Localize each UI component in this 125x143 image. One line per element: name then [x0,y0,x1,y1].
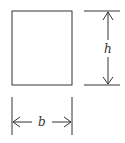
width-label: b [38,115,46,129]
height-dimension: h [84,11,120,85]
height-label: h [104,42,112,56]
width-dimension: b [12,97,72,135]
rectangle-shape [12,11,72,85]
rectangle-dimension-diagram: h b [0,0,125,143]
